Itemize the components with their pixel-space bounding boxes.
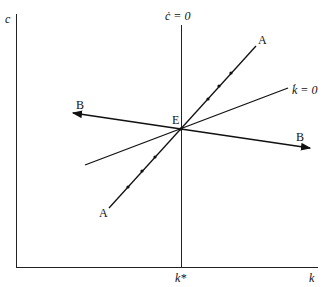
arm-b-left-label: B [76, 99, 84, 111]
stable-arm-a [109, 46, 256, 208]
equilibrium-point [179, 127, 183, 131]
k-dot-zero-line [85, 88, 288, 165]
equilibrium-label: E [172, 114, 179, 126]
y-axis-label: c [5, 13, 10, 25]
arm-b-right-label: B [296, 131, 304, 143]
k-dot-zero-label: k̇ = 0 [292, 84, 317, 96]
phase-diagram: c k k* ċ = 0 k̇ = 0 A A B B E [0, 0, 327, 287]
c-dot-zero-label: ċ = 0 [165, 10, 190, 22]
unstable-arm-b-right [181, 129, 310, 148]
diagram-canvas [0, 0, 327, 287]
x-tick-k-star: k* [175, 272, 186, 284]
arm-a-top-label: A [258, 34, 267, 46]
arm-a-bottom-label: A [99, 207, 108, 219]
unstable-arm-b-left [73, 113, 181, 129]
x-axis-label: k [309, 272, 314, 284]
